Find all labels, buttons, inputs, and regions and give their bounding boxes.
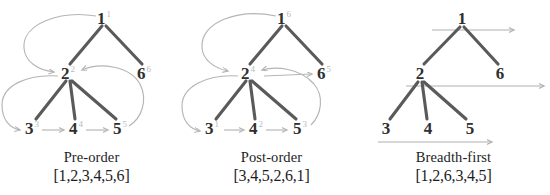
node-5: 53 [293, 120, 307, 137]
node-order: 1 [107, 9, 112, 19]
node-order: 2 [71, 64, 76, 74]
tree-edge-1-2 [250, 26, 282, 64]
panel-caption-title: Breadth-first [362, 149, 545, 166]
node-1: 16 [277, 10, 291, 27]
node-label: 2 [416, 64, 425, 83]
node-label: 1 [97, 9, 106, 28]
panel-caption-title: Pre-order [0, 149, 183, 166]
node-label: 6 [496, 64, 505, 83]
node-label: 3 [382, 119, 391, 138]
traverse-arrow-1-to-3 [202, 14, 276, 71]
node-label: 5 [113, 119, 122, 138]
node-6: 65 [317, 65, 331, 82]
panel-caption-sequence: [1,2,6,3,4,5] [362, 167, 545, 185]
node-label: 6 [137, 64, 146, 83]
panel-pre-order: 11 22 66 33 44 55 Pre-order [1,2,3,4,5,6… [0, 0, 183, 195]
tree-edge-1-2 [70, 26, 102, 64]
tree-edge-1-6 [286, 26, 322, 64]
node-label: 6 [317, 64, 326, 83]
tree-edge-1-6 [106, 26, 142, 64]
node-order: 5 [123, 119, 128, 129]
tree-edge-2-4 [70, 81, 75, 119]
node-order: 1 [215, 119, 220, 129]
node-label: 4 [424, 119, 433, 138]
tree-edge-2-4 [250, 81, 255, 119]
traverse-arrow-1-to-2 [24, 15, 96, 72]
node-label: 4 [249, 119, 258, 138]
tree-edge-2-5 [252, 81, 296, 119]
panel-breadth-first: 1 2 6 3 4 5 Breadth-first [1,2,6,3,4,5] [362, 0, 545, 195]
tree-edge-2-3 [390, 82, 418, 119]
node-4: 4 [424, 120, 433, 137]
tree-edge-2-3 [36, 81, 66, 119]
node-3: 3 [382, 120, 391, 137]
node-2: 24 [241, 65, 255, 82]
node-label: 2 [61, 64, 70, 83]
node-2: 22 [61, 65, 75, 82]
node-order: 6 [287, 9, 292, 19]
node-1: 1 [458, 10, 467, 27]
node-label: 1 [458, 9, 467, 28]
panel-caption-sequence: [3,4,5,2,6,1] [180, 167, 363, 185]
node-label: 5 [293, 119, 302, 138]
node-3: 33 [25, 120, 39, 137]
node-label: 2 [241, 64, 250, 83]
tree-edge-1-6 [464, 27, 498, 64]
tree-edge-2-3 [216, 81, 246, 119]
node-label: 1 [277, 9, 286, 28]
tree-edge-2-4 [422, 82, 427, 119]
node-order: 4 [79, 119, 84, 129]
node-order: 3 [35, 119, 40, 129]
node-5: 55 [113, 120, 127, 137]
node-label: 5 [466, 119, 475, 138]
tree-edge-2-5 [72, 81, 116, 119]
node-order: 3 [303, 119, 308, 129]
node-label: 4 [69, 119, 78, 138]
node-3: 31 [205, 120, 219, 137]
node-order: 5 [327, 64, 332, 74]
node-order: 4 [251, 64, 256, 74]
node-2: 2 [416, 65, 425, 82]
node-5: 5 [466, 120, 475, 137]
node-4: 44 [69, 120, 83, 137]
node-label: 3 [25, 119, 34, 138]
node-6: 6 [496, 65, 505, 82]
node-1: 11 [97, 10, 111, 27]
node-order: 2 [259, 119, 264, 129]
panel-caption-title: Post-order [180, 149, 363, 166]
node-6: 66 [137, 65, 151, 82]
node-4: 42 [249, 120, 263, 137]
node-order: 6 [147, 64, 152, 74]
tree-edge-1-2 [424, 27, 460, 64]
node-label: 3 [205, 119, 214, 138]
tree-edge-2-5 [424, 82, 466, 119]
tree-traversal-figure: 11 22 66 33 44 55 Pre-order [1,2,3,4,5,6… [0, 0, 550, 195]
panel-post-order: 16 24 65 31 42 53 Post-order [3,4,5,2,6,… [180, 0, 363, 195]
panel-caption-sequence: [1,2,3,4,5,6] [0, 167, 183, 185]
